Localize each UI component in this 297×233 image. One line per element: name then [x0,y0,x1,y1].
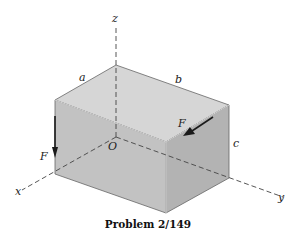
z-axis-label: z [111,12,118,25]
edge-c-label: c [233,137,239,150]
force-top-label: F [177,117,186,130]
problem-figure: z x y O a b c F F Problem 2/149 [0,0,297,233]
y-axis-label: y [277,191,285,204]
origin-label: O [108,140,117,153]
x-axis-label: x [15,185,22,198]
edge-b-label: b [175,73,182,86]
edge-a-label: a [79,71,86,84]
force-left-label: F [39,150,48,163]
figure-caption: Problem 2/149 [105,218,191,230]
